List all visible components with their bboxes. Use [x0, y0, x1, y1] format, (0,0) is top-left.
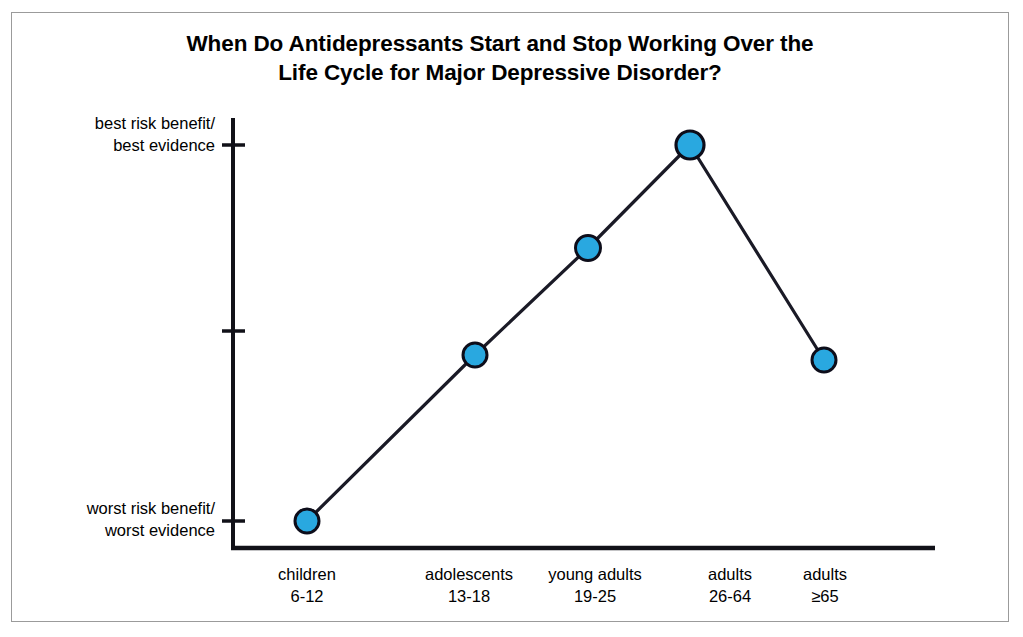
data-point-marker[interactable] — [576, 236, 601, 261]
x-tick-label-name: young adults — [520, 563, 670, 585]
chart-figure: When Do Antidepressants Start and Stop W… — [0, 0, 1023, 637]
x-tick-label-name: children — [232, 563, 382, 585]
data-point-marker[interactable] — [812, 348, 836, 372]
plot-area — [0, 0, 1023, 637]
x-tick-label-children: children 6-12 — [232, 563, 382, 607]
x-tick-label-range: 6-12 — [232, 585, 382, 607]
x-tick-label-range: ≥65 — [750, 585, 900, 607]
data-series — [295, 131, 836, 533]
data-point-marker[interactable] — [295, 509, 319, 533]
x-tick-label-name: adults — [750, 563, 900, 585]
data-point-marker[interactable] — [463, 343, 487, 367]
x-tick-label-adults-senior: adults ≥65 — [750, 563, 900, 607]
axes — [222, 118, 935, 548]
x-tick-label-range: 19-25 — [520, 585, 670, 607]
x-tick-label-young-adults: young adults 19-25 — [520, 563, 670, 607]
data-line — [307, 145, 824, 521]
data-point-marker[interactable] — [676, 131, 704, 159]
